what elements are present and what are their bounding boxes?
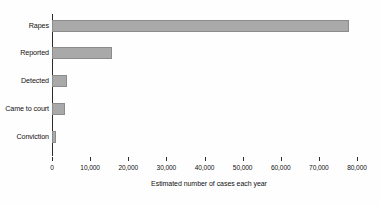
bar-rapes — [52, 20, 349, 32]
bar-chart: Rapes Reported Detected Came to court Co… — [0, 0, 380, 205]
category-label-came-to-court: Came to court — [0, 103, 49, 115]
bar-conviction — [52, 131, 56, 143]
x-axis-tick — [243, 157, 244, 161]
x-axis-title-text: Estimated number of cases each year — [113, 180, 267, 187]
x-axis-title: Estimated number of cases each year — [0, 180, 380, 187]
x-axis-tick — [52, 157, 53, 161]
plot-area — [52, 14, 357, 155]
bar-came-to-court — [52, 103, 65, 115]
x-axis-tick — [319, 157, 320, 161]
x-axis-tick — [90, 157, 91, 161]
x-axis-tick-label: 80,000 — [327, 163, 380, 172]
category-label-conviction: Conviction — [0, 131, 49, 143]
category-label-detected: Detected — [0, 75, 49, 87]
x-axis-tick — [166, 157, 167, 161]
category-label-rapes: Rapes — [0, 20, 49, 32]
bar-reported — [52, 47, 112, 59]
bar-detected — [52, 75, 67, 87]
x-axis-tick — [357, 157, 358, 161]
x-axis-tick — [205, 157, 206, 161]
category-label-reported: Reported — [0, 47, 49, 59]
x-axis-tick — [128, 157, 129, 161]
x-axis-tick — [281, 157, 282, 161]
